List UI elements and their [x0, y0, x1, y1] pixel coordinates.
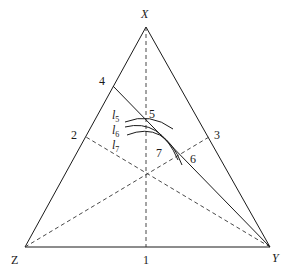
edge-x-y: [146, 27, 270, 247]
point-label-3: 3: [214, 128, 220, 142]
vertex-label-x: X: [140, 7, 149, 21]
point-label-6: 6: [190, 152, 196, 166]
edge-x-z: [25, 27, 146, 247]
line-4-y: [113, 86, 270, 247]
median-y-2: [86, 137, 270, 247]
curve-label-l6: l6: [112, 123, 119, 139]
curve-label-l7: l7: [112, 138, 119, 154]
point-label-5: 5: [149, 107, 155, 121]
curve-label-l5: l5: [112, 108, 119, 124]
point-label-4: 4: [99, 74, 105, 88]
point-label-2: 2: [71, 128, 77, 142]
point-label-1: 1: [143, 253, 149, 267]
vertex-label-z: Z: [11, 253, 18, 267]
curve-l6: [125, 125, 178, 160]
triangle-edges: [25, 27, 270, 247]
ternary-diagram: X Y Z 1 2 3 4 5 6 7 l5 l6 l7: [0, 0, 285, 274]
isotherm-curves: [125, 118, 182, 165]
vertex-label-y: Y: [272, 251, 280, 265]
point-label-7: 7: [156, 146, 162, 160]
median-lines: [25, 27, 270, 247]
curve-l7: [127, 131, 182, 165]
